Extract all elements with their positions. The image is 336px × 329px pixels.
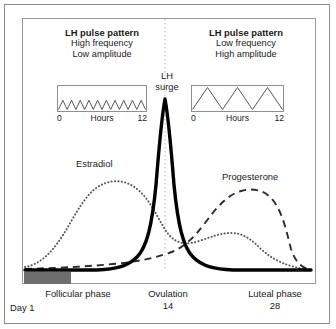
- inset-left-axis: 0 Hours 12: [57, 113, 147, 125]
- panel-right-title: LH pulse pattern: [186, 27, 306, 38]
- inset-right-axis: 0 Hours 12: [191, 113, 284, 125]
- inset-left-axis-end: 12: [137, 113, 147, 123]
- ovulation-text: Ovulation: [138, 288, 198, 300]
- follicular-phase-text: Follicular phase: [28, 288, 128, 300]
- ovulation-day-text: 14: [138, 300, 198, 312]
- inset-pulse-low-frequency: [191, 85, 284, 112]
- luteal-phase-label: Luteal phase 28: [234, 288, 316, 312]
- panel-left-title: LH pulse pattern: [46, 27, 158, 38]
- panel-right-line1: Low frequency: [186, 38, 306, 49]
- follicular-phase-label: Follicular phase: [28, 288, 128, 300]
- estradiol-label: Estradiol: [76, 158, 112, 169]
- progesterone-label: Progesterone: [222, 171, 278, 182]
- ovulation-label: Ovulation 14: [138, 288, 198, 312]
- inset-right-waveform: [192, 86, 283, 111]
- day-start-label: Day 1: [10, 302, 60, 314]
- waveform-polyline-left: [59, 100, 146, 109]
- progesterone-curve: [25, 190, 311, 271]
- panel-left-line2: Low amplitude: [46, 49, 158, 60]
- inset-left-axis-mid: Hours: [57, 113, 147, 123]
- day-start-text: Day 1: [10, 302, 60, 314]
- lh-surge-line2: surge: [140, 81, 194, 92]
- panel-left-line1: High frequency: [46, 38, 158, 49]
- lh-pulse-panel-right: LH pulse pattern Low frequency High ampl…: [186, 27, 306, 60]
- inset-left-waveform: [58, 86, 146, 111]
- lh-pulse-panel-left: LH pulse pattern High frequency Low ampl…: [46, 27, 158, 60]
- lh-surge-label: LH surge: [140, 70, 194, 93]
- inset-right-axis-mid: Hours: [191, 113, 284, 123]
- waveform-polyline-right: [193, 88, 283, 110]
- panel-right-line2: High amplitude: [186, 49, 306, 60]
- hormone-cycle-figure: LH pulse pattern High frequency Low ampl…: [0, 0, 336, 329]
- luteal-phase-text: Luteal phase: [234, 288, 316, 300]
- luteal-day-text: 28: [234, 300, 316, 312]
- inset-right-axis-end: 12: [274, 113, 284, 123]
- inset-pulse-high-frequency: [57, 85, 147, 112]
- lh-surge-line1: LH: [140, 70, 194, 81]
- menstruation-bar: [24, 272, 71, 284]
